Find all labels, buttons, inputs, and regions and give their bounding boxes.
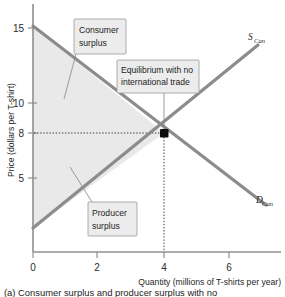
x-tick-label-6: 6	[226, 262, 232, 273]
producer-surplus-callout-line1: Producer	[92, 208, 127, 218]
y-tick-label-5: 5	[18, 173, 24, 184]
consumer-surplus-callout-line1: Consumer	[79, 25, 119, 35]
x-tick-label-2: 2	[94, 262, 100, 273]
y-tick-label-8: 8	[18, 128, 24, 139]
equilibrium-point-marker	[160, 129, 169, 138]
consumer-surplus-callout-line2: surplus	[79, 38, 107, 48]
supply-demand-chart: 15 10 8 5 0 2 4 6 Price (dollars per T-s…	[0, 0, 285, 297]
supply-curve-label-subscript: Can	[254, 37, 266, 44]
x-tick-label-4: 4	[161, 262, 167, 273]
y-tick-label-15: 15	[13, 23, 25, 34]
figure-caption: (a) Consumer surplus and producer surplu…	[4, 287, 217, 297]
y-axis-title: Price (dollars per T-shirt)	[6, 83, 16, 177]
supply-curve-label: S	[248, 32, 253, 42]
equilibrium-callout-line2: international trade	[121, 77, 190, 87]
equilibrium-callout-line1: Equilibrium with no	[121, 65, 193, 75]
figure-panel: 15 10 8 5 0 2 4 6 Price (dollars per T-s…	[0, 0, 285, 297]
x-tick-label-0: 0	[30, 262, 36, 273]
producer-surplus-callout-line2: surplus	[92, 221, 120, 231]
x-axis-title: Quantity (millions of T-shirts per year)	[138, 277, 281, 287]
demand-curve-label-subscript: Can	[262, 200, 274, 207]
